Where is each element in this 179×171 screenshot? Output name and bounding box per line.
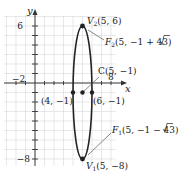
f1-label: F1(5, −1 − 43) [111,125,179,136]
y-axis-arrow-icon [33,9,38,15]
v1-label: V1(5, −8) [86,161,128,171]
x-axis-label: x [125,83,131,94]
vertex-v1-point [80,157,85,162]
right-point-label: (6, −1) [93,96,125,106]
center-label: C(5, −1) [98,66,137,76]
center-point [80,90,84,94]
left-point-label: (4, −1) [41,96,73,106]
right-covertex-point [90,90,94,94]
tick-label-6: 6 [17,21,23,31]
v2-label: V2(5, 6) [87,16,122,27]
grid [4,16,116,166]
ellipse-graph: y x −2 8 6 −8 V2(5, 6) F2(5, −1 + 43) C(… [0,0,179,171]
y-axis-label: y [26,5,33,16]
tick-label-neg8: −8 [17,154,31,164]
tick-label-neg2: −2 [12,74,25,84]
left-covertex-point [71,90,75,94]
vertex-v2-point [80,24,85,29]
axes [4,12,124,166]
